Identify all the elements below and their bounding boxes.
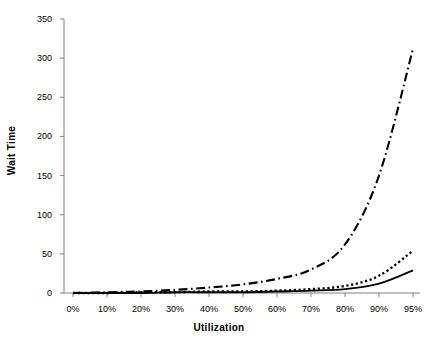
axis-lines xyxy=(64,19,420,293)
data-series-dash-dot xyxy=(73,49,413,293)
data-series-group xyxy=(73,49,413,293)
axis-tick-marks xyxy=(60,19,413,297)
x-axis-title: Utilization xyxy=(0,322,438,333)
plot-area xyxy=(0,0,438,348)
wait-time-vs-utilization-chart: Wait Time 050100150200250300350 0%10%20%… xyxy=(0,0,438,348)
